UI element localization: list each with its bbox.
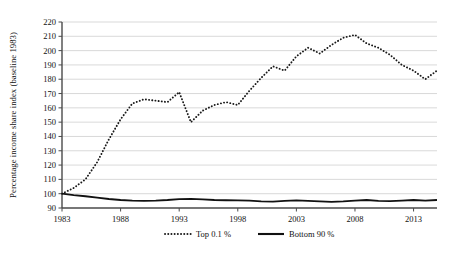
x-axis-tick-label: 2013 (405, 214, 422, 224)
y-axis-tick-label: 130 (43, 146, 56, 156)
series-line-top-0-1-pct (62, 35, 437, 194)
y-axis-tick-label: 110 (44, 174, 56, 184)
x-axis-tick-label: 2008 (346, 214, 363, 224)
y-axis-tick-label: 160 (43, 103, 56, 113)
x-axis-tick-label: 1988 (112, 214, 129, 224)
y-axis-tick-label: 190 (43, 60, 56, 70)
y-axis-tick-label: 210 (43, 31, 56, 41)
series-line-bottom-90-pct (62, 194, 437, 202)
income-share-index-chart: 9010011012013014015016017018019020021022… (0, 0, 460, 256)
y-axis-tick-label: 150 (43, 117, 56, 127)
legend-label-bottom-90-pct: Bottom 90 % (289, 229, 334, 239)
y-axis-tick-label: 100 (43, 189, 56, 199)
y-axis-tick-label: 90 (48, 203, 57, 213)
y-axis-tick-label: 220 (43, 17, 56, 27)
y-axis-tick-label: 180 (43, 74, 56, 84)
x-axis-tick-label: 1983 (54, 214, 71, 224)
y-axis-tick-label: 140 (43, 131, 56, 141)
chart-figure: 9010011012013014015016017018019020021022… (0, 0, 460, 256)
y-axis-tick-label: 120 (43, 160, 56, 170)
legend-label-top-0-1-pct: Top 0.1 % (196, 229, 231, 239)
x-axis-tick-label: 1993 (171, 214, 188, 224)
y-axis-tick-label: 170 (43, 89, 56, 99)
x-axis-tick-label: 1998 (229, 214, 246, 224)
y-axis-title: Percentage income share index (baseline … (8, 32, 18, 198)
x-axis-tick-label: 2003 (288, 214, 305, 224)
y-axis-tick-label: 200 (43, 46, 56, 56)
